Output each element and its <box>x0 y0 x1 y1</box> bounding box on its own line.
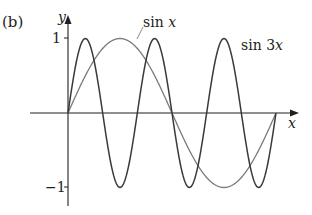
y-tick-label-1: 1 <box>52 30 61 46</box>
x-axis-label: x <box>288 115 296 131</box>
trig-chart: (b) y x 1 −1 sin x sin 3x <box>0 0 312 215</box>
sin-3x-label: sin 3x <box>241 37 283 53</box>
sin-x-label: sin x <box>143 14 176 30</box>
panel-label: (b) <box>2 13 23 31</box>
y-tick-label-neg1: −1 <box>45 179 66 195</box>
y-axis-label: y <box>57 9 67 25</box>
